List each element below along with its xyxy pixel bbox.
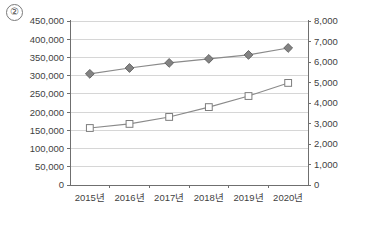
right-axis-tick-label: 1,000 — [314, 159, 338, 170]
left-axis-tick-label: 300,000 — [30, 70, 64, 81]
left-axis-tick-label: 50,000 — [35, 161, 64, 172]
data-point-marker-diamond — [284, 44, 293, 53]
left-axis-tick-label: 400,000 — [30, 34, 64, 45]
x-axis-category-label: 2020년 — [273, 192, 303, 203]
data-point-marker-square — [126, 121, 133, 128]
right-axis-tick-label: 4,000 — [314, 97, 338, 108]
data-point-marker-square — [285, 80, 292, 87]
left-axis-tick-label: 100,000 — [30, 143, 64, 154]
right-axis-tick-label: 0 — [314, 179, 319, 190]
right-axis-tick-label: 7,000 — [314, 36, 338, 47]
chart-svg: 050,000100,000150,000200,000250,000300,0… — [0, 0, 371, 227]
right-axis-tick-label: 5,000 — [314, 77, 338, 88]
x-axis-category-label: 2017년 — [154, 192, 184, 203]
x-axis-category-label: 2015년 — [75, 192, 105, 203]
left-axis-tick-label: 150,000 — [30, 125, 64, 136]
right-axis-tick-label: 8,000 — [314, 15, 338, 26]
series-line-series-square — [90, 83, 288, 128]
right-axis-tick-label: 2,000 — [314, 138, 338, 149]
data-point-marker-square — [86, 125, 93, 132]
chart-figure: ② 050,000100,000150,000200,000250,000300… — [0, 0, 371, 227]
data-point-marker-diamond — [244, 50, 253, 59]
data-point-marker-square — [205, 104, 212, 111]
left-axis-tick-label: 250,000 — [30, 88, 64, 99]
data-point-marker-diamond — [125, 64, 134, 73]
data-point-marker-square — [166, 114, 173, 121]
left-axis-tick-label: 200,000 — [30, 107, 64, 118]
series-line-series-diamond — [90, 48, 288, 74]
data-point-marker-diamond — [85, 69, 94, 78]
left-axis-tick-label: 350,000 — [30, 52, 64, 63]
data-point-marker-square — [245, 93, 252, 100]
x-axis-category-label: 2016년 — [114, 192, 144, 203]
data-point-marker-diamond — [165, 59, 174, 68]
left-axis-tick-label: 0 — [59, 179, 64, 190]
x-axis-category-label: 2018년 — [194, 192, 224, 203]
data-point-marker-diamond — [204, 55, 213, 64]
right-axis-tick-label: 6,000 — [314, 56, 338, 67]
plot-area: 050,000100,000150,000200,000250,000300,0… — [0, 0, 371, 227]
right-axis-tick-label: 3,000 — [314, 118, 338, 129]
x-axis-category-label: 2019년 — [233, 192, 263, 203]
left-axis-tick-label: 450,000 — [30, 15, 64, 26]
